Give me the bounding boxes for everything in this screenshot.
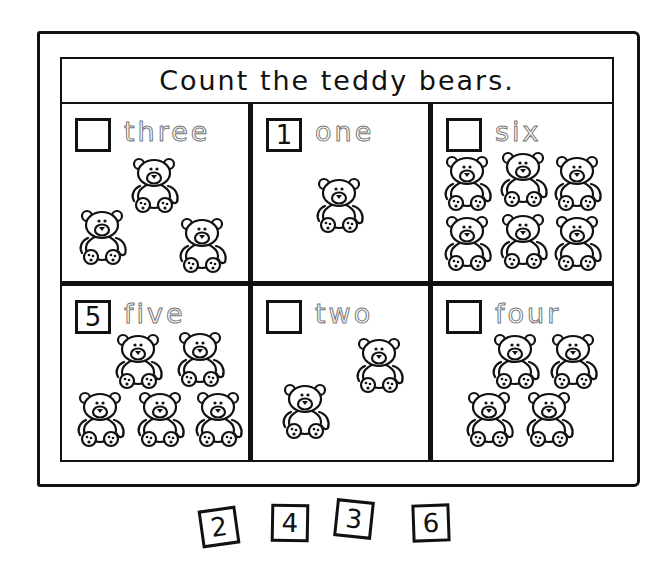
count-cell-one: 1 one	[253, 104, 428, 281]
counting-board: Count the teddy bears. three 1 one six	[60, 57, 614, 462]
teddy-bear-icon	[489, 332, 543, 390]
count-cell-five: 5 five	[62, 286, 248, 460]
number-tile-6[interactable]: 6	[411, 503, 450, 542]
trace-word: two	[315, 298, 373, 329]
answer-box[interactable]: 5	[75, 300, 111, 334]
teddy-bear-icon	[497, 212, 551, 270]
teddy-bear-icon	[128, 156, 182, 214]
teddy-bear-icon	[313, 176, 367, 234]
trace-word: three	[124, 116, 210, 147]
bear-grid: three 1 one six 5 five	[62, 104, 612, 460]
teddy-bear-icon	[551, 154, 605, 212]
teddy-bear-icon	[441, 154, 495, 212]
teddy-bear-icon	[279, 382, 333, 440]
teddy-bear-icon	[353, 336, 407, 394]
teddy-bear-icon	[112, 332, 166, 390]
answer-box[interactable]: 1	[266, 118, 302, 152]
trace-word: six	[495, 116, 542, 147]
teddy-bear-icon	[192, 390, 246, 448]
teddy-bear-icon	[497, 150, 551, 208]
count-cell-three: three	[62, 104, 248, 281]
number-tile-2[interactable]: 2	[198, 506, 241, 549]
number-tile-4[interactable]: 4	[271, 504, 310, 543]
teddy-bear-icon	[174, 330, 228, 388]
number-tiles: 2 4 3 6	[0, 490, 672, 560]
trace-word: one	[315, 116, 374, 147]
teddy-bear-icon	[551, 214, 605, 272]
teddy-bear-icon	[176, 216, 230, 274]
teddy-bear-icon	[463, 390, 517, 448]
answer-box[interactable]	[446, 300, 482, 334]
trace-word: five	[124, 298, 186, 329]
worksheet-title: Count the teddy bears.	[62, 59, 612, 104]
count-cell-four: four	[433, 286, 612, 460]
teddy-bear-icon	[76, 208, 130, 266]
teddy-bear-icon	[523, 390, 577, 448]
answer-box[interactable]	[75, 118, 111, 152]
teddy-bear-icon	[547, 332, 601, 390]
number-tile-3[interactable]: 3	[333, 498, 375, 540]
count-cell-six: six	[433, 104, 612, 281]
teddy-bear-icon	[134, 390, 188, 448]
answer-box[interactable]	[266, 300, 302, 334]
answer-box[interactable]	[446, 118, 482, 152]
count-cell-two: two	[253, 286, 428, 460]
trace-word: four	[495, 298, 561, 329]
teddy-bear-icon	[74, 390, 128, 448]
teddy-bear-icon	[441, 214, 495, 272]
